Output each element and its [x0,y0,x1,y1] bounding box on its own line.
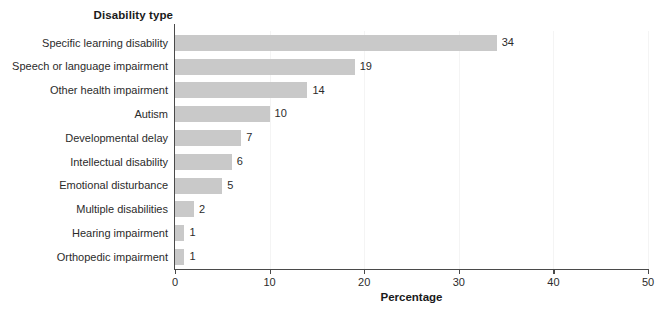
x-tick-mark [175,269,176,274]
category-label: Intellectual disability [0,154,168,170]
bar-row[interactable]: 1 [175,221,648,245]
bar[interactable] [175,82,307,98]
x-axis-title: Percentage [175,291,648,303]
gridline-50 [648,31,649,269]
bar-value-label: 14 [312,82,324,99]
category-label: Speech or language impairment [0,58,168,74]
bar[interactable] [175,106,270,122]
x-tick-mark [364,269,365,274]
x-tick-mark [459,269,460,274]
x-tick-mark [553,269,554,274]
x-tick-mark [648,269,649,274]
bar-row[interactable]: 5 [175,174,648,198]
bar-row[interactable]: 10 [175,102,648,126]
bar[interactable] [175,178,222,194]
x-tick-label: 50 [642,276,654,288]
x-tick-label: 40 [547,276,559,288]
bar-rows: 34191410765211 [175,31,648,269]
plot-area: 34191410765211 [175,31,648,269]
x-tick-mark [270,269,271,274]
bar-value-label: 1 [189,224,195,241]
category-label: Autism [0,106,168,122]
bar-value-label: 6 [237,153,243,170]
bar-row[interactable]: 6 [175,150,648,174]
category-label: Other health impairment [0,82,168,98]
bar-value-label: 2 [199,201,205,218]
bar-row[interactable]: 2 [175,198,648,222]
category-label: Emotional disturbance [0,177,168,193]
category-label: Hearing impairment [0,225,168,241]
bar[interactable] [175,154,232,170]
bar-row[interactable]: 34 [175,31,648,55]
category-label: Specific learning disability [0,35,168,51]
bar-value-label: 1 [189,248,195,265]
bar-value-label: 7 [246,129,252,146]
bar-value-label: 10 [275,105,287,122]
bar-value-label: 34 [502,34,514,51]
bar-row[interactable]: 1 [175,245,648,269]
x-tick-label: 30 [453,276,465,288]
x-tick-label: 20 [358,276,370,288]
bar[interactable] [175,35,497,51]
x-axis-line [175,269,648,270]
category-label: Developmental delay [0,130,168,146]
x-tick-label: 0 [172,276,178,288]
bar[interactable] [175,59,355,75]
bar-row[interactable]: 19 [175,55,648,79]
bar[interactable] [175,130,241,146]
bar-row[interactable]: 7 [175,126,648,150]
category-label: Orthopedic impairment [0,249,168,265]
bar-value-label: 19 [360,58,372,75]
bar[interactable] [175,249,184,265]
bar-row[interactable]: 14 [175,79,648,103]
bar-value-label: 5 [227,177,233,194]
bar[interactable] [175,201,194,217]
category-label: Multiple disabilities [0,201,168,217]
x-tick-label: 10 [263,276,275,288]
bar[interactable] [175,225,184,241]
bar-chart: Disability type 34191410765211 Specific … [0,0,655,310]
y-axis-title: Disability type [0,9,175,21]
